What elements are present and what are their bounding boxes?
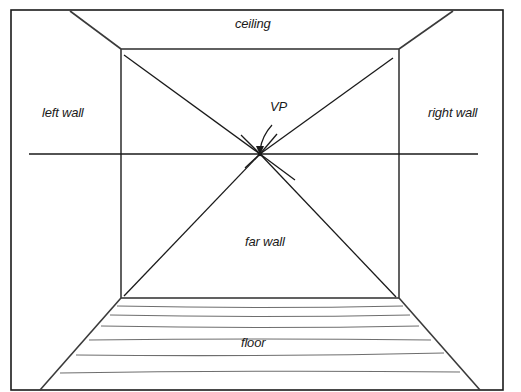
floor-label: floor bbox=[241, 335, 265, 350]
ceiling-right-edge bbox=[399, 11, 453, 49]
room-edges bbox=[40, 11, 480, 390]
ceiling-label: ceiling bbox=[235, 16, 270, 31]
ceiling-left-edge bbox=[70, 11, 121, 49]
floor-left-edge bbox=[40, 298, 121, 390]
convergence-lines bbox=[124, 55, 396, 297]
right-wall-label: right wall bbox=[428, 105, 477, 120]
far-wall-outline bbox=[121, 49, 399, 298]
left-wall-label: left wall bbox=[42, 105, 84, 120]
vanishing-point bbox=[258, 152, 262, 156]
perspective-diagram bbox=[0, 0, 521, 392]
vp-label: VP bbox=[270, 99, 287, 114]
floor-right-edge bbox=[399, 298, 480, 390]
far-wall-label: far wall bbox=[245, 234, 285, 249]
